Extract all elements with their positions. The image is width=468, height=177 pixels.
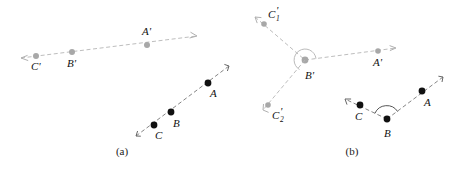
angle-arc-at-B — [375, 106, 398, 114]
primed-branch-B-to-A-line — [305, 48, 396, 60]
point-B-prime-marker — [69, 49, 75, 55]
object-branch-C-line — [345, 99, 387, 119]
figure-container: C' B' A' C B A (a) — [0, 0, 468, 177]
point-C1-prime-label-group: C 1 ' — [268, 4, 280, 23]
point-C1-prime-label-base: C — [268, 8, 276, 20]
point-C-label: C — [155, 129, 163, 141]
point-C-prime-marker — [33, 53, 39, 59]
primed-ray-arrowhead-right — [190, 32, 197, 38]
panel-a-caption: (a) — [116, 145, 129, 158]
point-B-prime-label: B' — [305, 69, 315, 81]
point-C2-prime-label-group: C 2 ' — [272, 105, 284, 124]
primed-branch-C2-line — [263, 60, 305, 110]
object-branch-A-line — [387, 77, 443, 119]
point-B-marker — [384, 116, 391, 123]
point-B-label: B — [384, 127, 391, 139]
point-A-prime-label: A' — [372, 56, 383, 68]
point-C1-prime-marker — [261, 21, 267, 27]
panel-b-caption: (b) — [346, 145, 359, 158]
panel-a-object-ray: C B A — [136, 64, 229, 141]
point-C2-prime-marker — [265, 102, 271, 108]
point-C-prime-label: C' — [31, 60, 41, 72]
point-A-prime-marker — [375, 48, 381, 54]
point-A-label: A — [423, 96, 431, 108]
panel-a: C' B' A' C B A (a) — [21, 25, 229, 158]
point-A-marker — [205, 80, 212, 87]
point-B-label: B — [173, 117, 180, 129]
point-A-marker — [419, 88, 426, 95]
panel-b: C 1 ' B' A' C 2 ' — [255, 4, 443, 158]
primed-ray-line — [21, 36, 197, 58]
panel-b-image-ray-primed-lower: C 2 ' — [263, 60, 305, 124]
object-ray-line — [136, 66, 229, 136]
point-A-prime-marker — [144, 42, 150, 48]
panel-a-image-ray-primed: C' B' A' — [21, 25, 197, 72]
point-A-prime-label: A' — [141, 25, 152, 37]
point-A-label: A — [209, 87, 217, 99]
point-C2-prime-label-base: C — [272, 109, 280, 121]
point-C-marker — [151, 122, 158, 129]
point-B-marker — [168, 109, 175, 116]
geometry-figure: C' B' A' C B A (a) — [0, 0, 468, 177]
point-C-label: C — [355, 110, 363, 122]
point-C-marker — [357, 102, 364, 109]
point-B-prime-label: B' — [67, 57, 77, 69]
panel-b-image-ray-primed-upper: C 1 ' B' A' — [255, 4, 396, 81]
